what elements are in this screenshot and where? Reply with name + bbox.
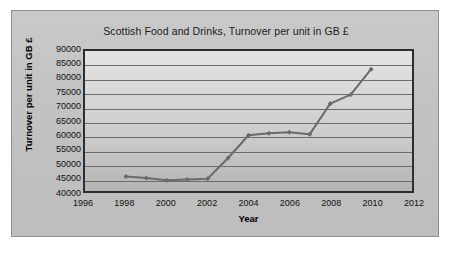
x-axis-tick-labels: 199619982000200220042006200820102012 [83,198,414,212]
y-tick-label: 55000 [40,145,81,154]
data-point-marker [185,177,190,182]
x-axis-title: Year [83,213,414,224]
y-tick-label: 80000 [40,73,81,82]
y-tick-label: 75000 [40,88,81,97]
y-tick-label: 45000 [40,174,81,183]
y-axis-title: Turnover per unit in GB £ [23,35,34,155]
plot-area [83,49,414,193]
x-tick-label: 1996 [63,198,103,209]
data-point-marker [144,176,149,181]
y-tick-label: 70000 [40,102,81,111]
y-axis-tick-labels: 4000045000500005500060000650007000075000… [40,45,81,193]
data-point-marker [287,130,292,135]
data-series-line [85,51,412,191]
x-tick-label: 2012 [394,198,434,209]
y-tick-label: 50000 [40,160,81,169]
data-point-marker [164,178,169,183]
y-tick-label: 60000 [40,131,81,140]
x-tick-label: 1998 [104,198,144,209]
chart-title: Scottish Food and Drinks, Turnover per u… [12,25,440,37]
y-tick-label: 40000 [40,189,81,198]
series-line [126,69,371,180]
chart-panel: Scottish Food and Drinks, Turnover per u… [11,10,439,237]
data-point-marker [123,174,128,179]
x-tick-label: 2008 [311,198,351,209]
x-tick-label: 2000 [146,198,186,209]
y-tick-label: 85000 [40,59,81,68]
x-tick-label: 2002 [187,198,227,209]
chart-screenshot: Scottish Food and Drinks, Turnover per u… [0,0,451,255]
x-tick-label: 2006 [270,198,310,209]
y-tick-label: 90000 [40,45,81,54]
data-point-marker [266,131,271,136]
x-tick-label: 2010 [353,198,393,209]
y-tick-label: 65000 [40,117,81,126]
x-tick-label: 2004 [229,198,269,209]
